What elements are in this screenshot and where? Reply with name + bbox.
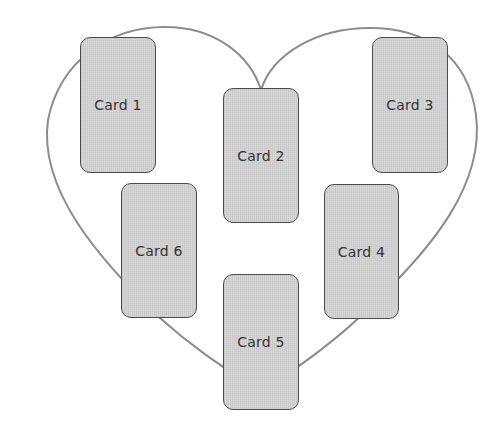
card-6[interactable]: Card 6 <box>121 183 197 318</box>
card-5[interactable]: Card 5 <box>223 274 299 410</box>
heart-card-spread-diagram: Card 1 Card 2 Card 3 Card 4 Card 5 Card … <box>0 0 504 444</box>
card-label: Card 5 <box>237 334 284 350</box>
card-label: Card 1 <box>94 97 141 113</box>
card-4[interactable]: Card 4 <box>324 184 399 319</box>
card-1[interactable]: Card 1 <box>80 37 156 173</box>
card-label: Card 6 <box>135 243 182 259</box>
card-3[interactable]: Card 3 <box>372 37 448 173</box>
card-2[interactable]: Card 2 <box>223 88 299 223</box>
card-label: Card 3 <box>386 97 433 113</box>
card-label: Card 2 <box>237 148 284 164</box>
card-label: Card 4 <box>338 244 385 260</box>
